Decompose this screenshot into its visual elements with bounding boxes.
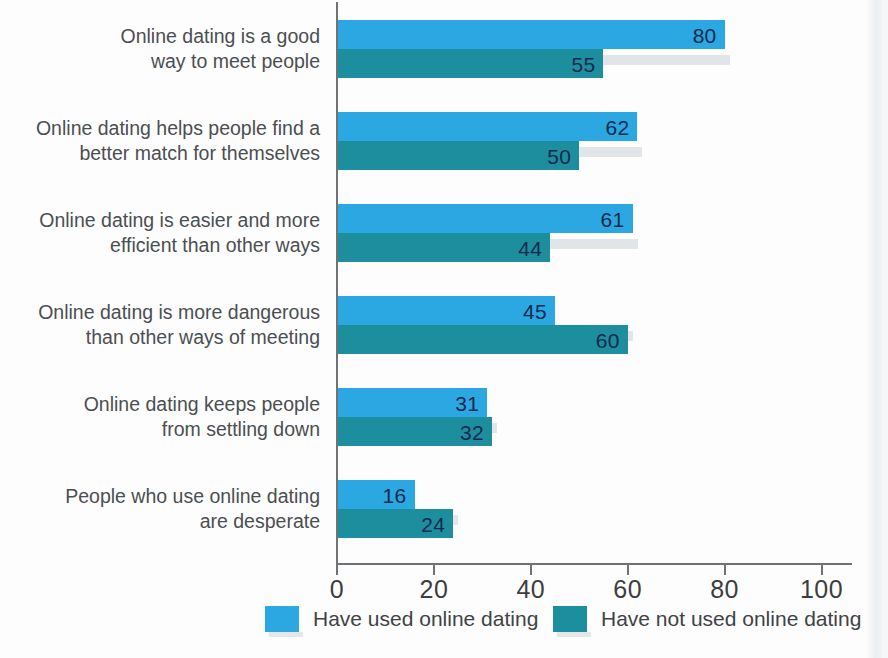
legend-item-have-used[interactable]: Have used online dating [265,606,538,632]
bar-value-label-have-used-4: 31 [439,392,479,416]
chart-page: Online dating is a good way to meet peop… [0,0,888,658]
x-tick-mark-0 [336,565,338,575]
category-label-5-line-1: are desperate [0,509,320,534]
chart-legend: Have used online dating Have not used on… [0,606,888,646]
x-tick-mark-20 [433,565,435,575]
category-label-3: Online dating is more dangerous than oth… [0,300,320,350]
x-tick-mark-100 [821,565,823,575]
x-tick-mark-60 [627,565,629,575]
bar-have-used-0[interactable] [337,20,725,49]
category-label-2-line-0: Online dating is easier and more [0,208,320,233]
x-tick-label-40: 40 [516,575,545,604]
x-tick-label-80: 80 [710,575,739,604]
x-axis-line [336,563,852,565]
category-label-1-line-1: better match for themselves [0,141,320,166]
bar-value-label-have-not-used-1: 50 [531,145,571,169]
category-label-5-line-0: People who use online dating [0,484,320,509]
bar-value-label-have-not-used-5: 24 [405,513,445,537]
legend-item-have-not-used[interactable]: Have not used online dating [553,606,861,632]
x-tick-mark-80 [724,565,726,575]
category-label-4-line-1: from settling down [0,417,320,442]
x-tick-mark-40 [530,565,532,575]
bar-value-label-have-not-used-3: 60 [580,329,620,353]
x-tick-label-100: 100 [800,575,843,604]
x-tick-label-0: 0 [330,575,344,604]
category-label-4: Online dating keeps people from settling… [0,392,320,442]
legend-swatch-have-used [265,606,299,632]
bar-value-label-have-used-3: 45 [507,300,547,324]
category-label-0-line-1: way to meet people [0,49,320,74]
category-label-3-line-1: than other ways of meeting [0,325,320,350]
bar-chart-plot-area: Online dating is a good way to meet peop… [0,0,888,658]
legend-label-have-used: Have used online dating [313,607,538,631]
bar-value-label-have-not-used-4: 32 [444,421,484,445]
legend-label-have-not-used: Have not used online dating [601,607,861,631]
category-label-1-line-0: Online dating helps people find a [0,116,320,141]
x-tick-label-60: 60 [613,575,642,604]
legend-swatch-have-not-used [553,606,587,632]
bar-value-label-have-used-1: 62 [589,116,629,140]
category-label-5: People who use online dating are despera… [0,484,320,534]
bar-value-label-have-used-2: 61 [585,208,625,232]
x-tick-label-20: 20 [419,575,448,604]
category-label-2-line-1: efficient than other ways [0,233,320,258]
category-label-0: Online dating is a good way to meet peop… [0,24,320,74]
category-label-0-line-0: Online dating is a good [0,24,320,49]
bar-value-label-have-used-0: 80 [677,24,717,48]
category-label-3-line-0: Online dating is more dangerous [0,300,320,325]
y-axis-line [336,2,338,564]
bar-value-label-have-not-used-2: 44 [502,237,542,261]
bar-value-label-have-not-used-0: 55 [555,53,595,77]
category-label-2: Online dating is easier and more efficie… [0,208,320,258]
category-label-4-line-0: Online dating keeps people [0,392,320,417]
bar-value-label-have-used-5: 16 [367,484,407,508]
category-label-1: Online dating helps people find a better… [0,116,320,166]
